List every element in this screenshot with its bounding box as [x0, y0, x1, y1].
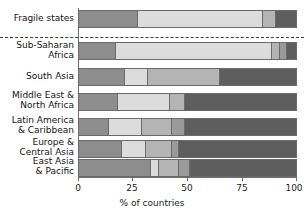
bar-segment-4	[172, 119, 185, 135]
bar-category-label-line1: South Asia	[26, 71, 74, 81]
stacked-bar	[78, 42, 297, 60]
x-tick-100	[296, 177, 297, 181]
bar-segment-1	[79, 160, 151, 176]
stacked-bar	[78, 159, 297, 177]
bar-segment-1	[79, 141, 122, 157]
bar-segment-1	[79, 94, 118, 110]
stacked-bar-chart: 0 25 50 75 100 % of countries Fragile st…	[0, 0, 304, 216]
bar-segment-1	[79, 119, 109, 135]
bar-segment-2	[122, 141, 146, 157]
bar-segment-5	[179, 141, 296, 157]
table-row: East Asia& Pacific	[0, 0, 304, 18]
bar-category-label: South Asia	[0, 71, 74, 81]
x-tick-label-25: 25	[126, 183, 137, 193]
bar-segment-2	[118, 94, 170, 110]
bar-category-label: East Asia& Pacific	[0, 156, 74, 176]
x-axis-label: % of countries	[0, 198, 304, 208]
x-tick-label-75: 75	[236, 183, 247, 193]
bar-category-label-line2: & Caribbean	[0, 125, 74, 135]
x-tick-label-50: 50	[181, 183, 192, 193]
bar-category-label-line1: Latin America	[12, 115, 74, 125]
bar-segment-3	[148, 69, 220, 85]
bar-segment-5	[287, 43, 296, 59]
bar-segment-5	[185, 119, 296, 135]
fragile-states-separator	[0, 37, 304, 38]
bar-segment-3	[170, 94, 185, 110]
bar-category-label: Europe &Central Asia	[0, 137, 74, 157]
bar-segment-4	[179, 160, 190, 176]
bar-segment-3	[272, 43, 281, 59]
bar-segment-3	[159, 160, 179, 176]
bar-category-label: Sub-SaharanAfrica	[0, 40, 74, 60]
bar-segment-5	[190, 160, 296, 176]
x-tick-25	[132, 177, 133, 181]
bar-category-label-line1: East Asia	[33, 156, 74, 166]
x-tick-75	[242, 177, 243, 181]
bar-category-label-line1: Sub-Saharan	[16, 40, 74, 50]
bar-segment-5	[185, 94, 296, 110]
stacked-bar	[78, 118, 297, 136]
stacked-bar	[78, 68, 297, 86]
bar-category-label-line1: Middle East &	[12, 90, 74, 100]
x-tick-50	[187, 177, 188, 181]
bar-segment-2	[151, 160, 160, 176]
bar-segment-2	[109, 119, 142, 135]
stacked-bar	[78, 93, 297, 111]
x-tick-label-100: 100	[285, 183, 302, 193]
bar-category-label-line1: Europe &	[32, 137, 74, 147]
bar-category-label: Latin America& Caribbean	[0, 115, 74, 135]
x-tick-label-0: 0	[75, 183, 81, 193]
bar-category-label-line2: North Africa	[0, 100, 74, 110]
stacked-bar	[78, 140, 297, 158]
bar-segment-3	[146, 141, 172, 157]
bar-segment-2	[116, 43, 271, 59]
bar-segment-2	[125, 69, 149, 85]
bar-segment-3	[142, 119, 172, 135]
bar-category-label: Middle East &North Africa	[0, 90, 74, 110]
bar-segment-5	[220, 69, 296, 85]
bar-category-label-line2: Africa	[0, 50, 74, 60]
bar-category-label-line2: & Pacific	[0, 166, 74, 176]
bar-segment-1	[79, 69, 125, 85]
x-tick-0	[78, 177, 79, 181]
bar-segment-1	[79, 43, 116, 59]
